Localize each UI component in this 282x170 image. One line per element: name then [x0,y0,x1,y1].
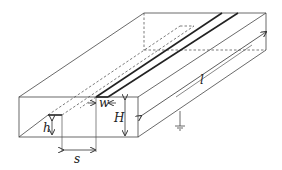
conducting-strips [48,13,238,115]
label-w: w [99,96,110,110]
label-h: h [43,121,51,135]
ground-symbol [175,111,185,130]
hidden-edges [48,13,266,115]
label-s: s [74,152,80,166]
inner-lines [62,45,252,152]
label-l: l [200,73,204,87]
label-H: H [113,111,125,125]
diagram-canvas: h H w s l [0,0,282,170]
